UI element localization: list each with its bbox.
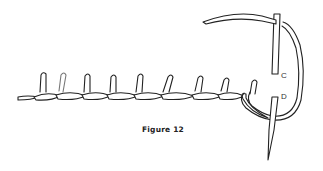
label-d: D <box>281 92 287 101</box>
needle-lower <box>268 97 278 160</box>
label-c: C <box>281 71 287 80</box>
stitch-illustration <box>0 0 323 171</box>
thread-incoming <box>203 14 276 24</box>
figure-caption: Figure 12 <box>142 125 184 134</box>
stitch-row <box>34 73 257 100</box>
